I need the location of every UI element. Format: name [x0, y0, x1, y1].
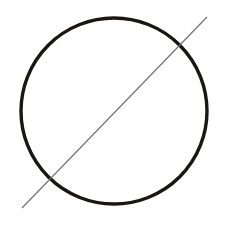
line-drawing-svg: [0, 0, 229, 225]
figure-canvas: [0, 0, 229, 225]
